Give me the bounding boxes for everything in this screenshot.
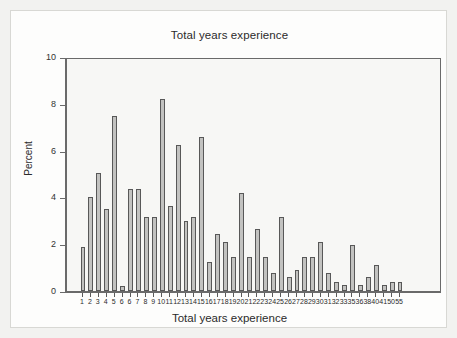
bar [398,282,403,291]
x-axis-tick-label: 20 [237,298,245,305]
x-axis-tick [336,293,337,297]
x-axis-tick [193,293,194,297]
bar [112,116,117,292]
x-axis-tick-label: 7 [135,298,139,305]
bar [191,217,196,291]
bar [334,282,339,291]
x-axis-tick-label: 16 [205,298,213,305]
x-axis-tick-label: 2 [88,298,92,305]
x-axis-tick-label: 24 [268,298,276,305]
x-axis-tick-label: 10 [157,298,165,305]
x-axis-tick-label: 4 [104,298,108,305]
x-axis-tick-label: 28 [300,298,308,305]
x-axis-tick [399,293,400,297]
x-axis-tick [304,293,305,297]
x-axis-tick-label: 22 [252,298,260,305]
bar [160,99,165,291]
x-axis-tick [383,293,384,297]
bar [318,242,323,291]
bar [366,277,371,291]
bar [374,265,379,291]
x-axis-tick [201,293,202,297]
x-axis-tick-label: 26 [284,298,292,305]
y-axis-tick [60,245,66,246]
x-axis-tick-label: 32 [332,298,340,305]
x-axis-tick-label: 14 [189,298,197,305]
x-axis-tick [233,293,234,297]
x-axis-tick [185,293,186,297]
x-axis-tick [90,293,91,297]
bar [104,209,109,291]
bar [271,273,276,291]
x-axis-tick-label: 8 [143,298,147,305]
x-axis-tick-label: 41 [379,298,387,305]
chart-title: Total years experience [11,29,448,41]
x-axis-tick [177,293,178,297]
y-axis-tick-label: 8 [28,99,56,109]
x-axis-tick-label: 19 [229,298,237,305]
x-axis-tick [312,293,313,297]
x-axis-tick-label: 21 [245,298,253,305]
x-axis-tick [328,293,329,297]
x-axis-tick [320,293,321,297]
bars-layer [67,59,440,291]
x-axis-tick-label: 11 [166,298,173,305]
x-axis-tick [241,293,242,297]
x-axis-tick [351,293,352,297]
x-axis-title: Total years experience [11,312,448,324]
x-axis-tick-label: 1 [80,298,84,305]
x-axis-tick [98,293,99,297]
x-axis-tick [296,293,297,297]
x-axis-tick [145,293,146,297]
bar [295,270,300,291]
bar [231,257,236,291]
x-axis-tick [209,293,210,297]
bar [207,262,212,291]
bar [263,257,268,291]
x-axis-tick-label: 50 [387,298,395,305]
x-axis-tick [344,293,345,297]
bar [144,217,149,291]
bar [223,242,228,291]
x-axis-tick-label: 33 [340,298,348,305]
x-axis-tick [248,293,249,297]
x-axis-tick [82,293,83,297]
bar [342,285,347,291]
bar [215,234,220,291]
bar [199,137,204,291]
x-axis-tick-label: 31 [324,298,332,305]
y-axis-tick [60,198,66,199]
y-axis-tick-label: 0 [28,286,56,296]
x-axis-tick [280,293,281,297]
x-axis-tick-label: 55 [395,298,403,305]
x-axis-tick [130,293,131,297]
bar [81,247,86,291]
x-axis-tick [391,293,392,297]
bar [326,273,331,291]
x-axis-tick [264,293,265,297]
bar [184,221,189,291]
x-axis-tick-label: 9 [151,298,155,305]
y-axis-title: Percent [23,119,34,199]
x-axis-tick [256,293,257,297]
y-axis-tick [60,292,66,293]
x-axis-tick-label: 23 [260,298,268,305]
bar [382,285,387,291]
x-axis-tick [169,293,170,297]
x-axis-tick [367,293,368,297]
x-axis-tick [359,293,360,297]
x-axis-tick-label: 17 [213,298,221,305]
bar [310,257,315,291]
x-axis-tick [375,293,376,297]
y-axis-tick-label: 2 [28,239,56,249]
y-axis-tick-label: 6 [28,146,56,156]
bar [128,189,133,291]
x-axis-tick [153,293,154,297]
x-axis-tick-label: 29 [308,298,316,305]
x-axis-tick-label: 6 [120,298,124,305]
x-axis-tick-label: 40 [371,298,379,305]
bar [96,173,101,291]
x-axis-tick [225,293,226,297]
y-axis-tick-label: 4 [28,192,56,202]
bar [176,145,181,291]
